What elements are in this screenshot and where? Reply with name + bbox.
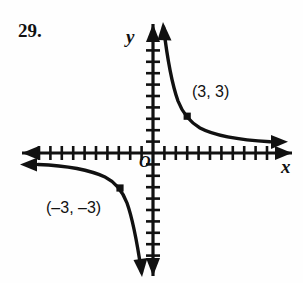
- coordinate-plane: [0, 0, 303, 283]
- curve-q3-left-arrow-icon: [20, 158, 37, 172]
- y-axis-label: y: [126, 27, 134, 46]
- point-label-3-3: (3, 3): [192, 84, 229, 100]
- curve-q3-down-arrow-icon: [134, 258, 148, 277]
- plot-point-3-3[interactable]: [184, 113, 191, 120]
- curve-branch-quadrant-3: [20, 158, 148, 277]
- y-axis: [146, 24, 160, 276]
- origin-label: O: [139, 154, 151, 170]
- x-axis: [22, 146, 292, 160]
- plot-point-neg3-neg3[interactable]: [116, 184, 123, 191]
- curve-q1-right-arrow-icon: [271, 135, 288, 149]
- curve-q1-up-arrow-icon: [158, 22, 172, 41]
- x-axis-label: x: [281, 157, 291, 176]
- y-axis-down-arrow-icon: [146, 258, 160, 276]
- x-axis-left-arrow-icon: [22, 146, 39, 160]
- curve-path-q3: [38, 165, 142, 273]
- point-label-neg3-neg3: (–3, –3): [46, 200, 101, 216]
- graph-figure: 29.: [0, 0, 303, 283]
